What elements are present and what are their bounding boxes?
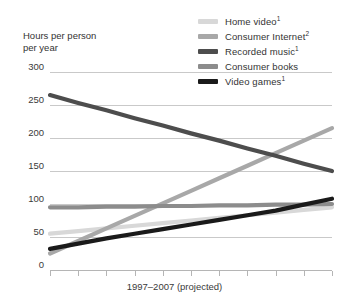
series-line-recorded-music <box>50 95 332 171</box>
series-line-home-video <box>50 207 332 233</box>
y-tick-label: 150 <box>28 160 44 171</box>
x-tick <box>191 271 192 276</box>
legend-swatch-recorded-music <box>198 49 218 54</box>
legend-label-home-video: Home video1 <box>225 16 280 27</box>
legend-item-home-video: Home video1 <box>198 14 348 29</box>
x-axis-label: 1997–2007 (projected) <box>0 281 349 292</box>
x-tick <box>332 271 333 276</box>
legend-item-consumer-internet: Consumer Internet2 <box>198 29 348 44</box>
x-tick <box>247 271 248 276</box>
y-axis-title: Hours per person per year <box>23 30 96 53</box>
x-tick <box>135 271 136 276</box>
y-tick-label: 200 <box>28 127 44 138</box>
series-lines <box>50 72 332 270</box>
chart-container: Home video1 Consumer Internet2 Recorded … <box>0 0 349 307</box>
x-axis-ticks <box>50 271 332 276</box>
x-tick <box>304 271 305 276</box>
y-tick-label: 300 <box>28 61 44 72</box>
x-tick <box>50 271 51 276</box>
legend-label-consumer-internet: Consumer Internet2 <box>225 31 309 42</box>
x-tick <box>163 271 164 276</box>
y-tick-label: 250 <box>28 94 44 105</box>
x-tick <box>78 271 79 276</box>
y-tick-label: 0 <box>39 259 44 270</box>
legend-label-recorded-music: Recorded music1 <box>225 46 299 57</box>
x-tick <box>276 271 277 276</box>
y-tick-label: 50 <box>33 226 44 237</box>
x-tick <box>106 271 107 276</box>
legend-swatch-consumer-books <box>198 64 218 69</box>
series-line-consumer-internet <box>50 128 332 253</box>
x-tick <box>219 271 220 276</box>
y-tick-label: 100 <box>28 193 44 204</box>
legend-swatch-consumer-internet <box>198 34 218 39</box>
legend-swatch-home-video <box>198 19 218 24</box>
legend-item-recorded-music: Recorded music1 <box>198 44 348 59</box>
plot-area <box>50 72 332 270</box>
legend-label-consumer-books: Consumer books <box>225 61 298 72</box>
